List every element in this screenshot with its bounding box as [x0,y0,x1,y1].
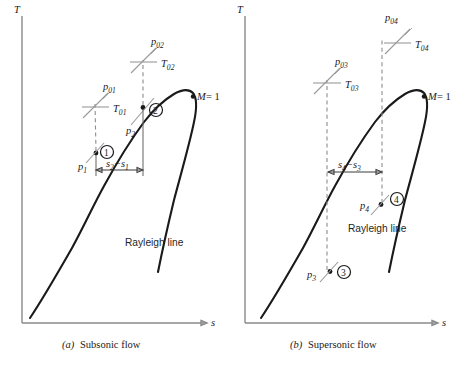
stagnation-temperature-04-label: T04 [415,39,429,53]
entropy-change-label-b: s4−s3 [338,159,361,173]
stagnation-pressure-04-label: p04 [384,12,398,26]
state-4-number: 4 [394,195,399,205]
mach-one-point-supersonic [422,94,426,98]
y-axis-label-supersonic: T [237,4,244,15]
mach-label-eq-subsonic: = 1 [206,91,220,102]
isobar-p3-line [320,262,338,282]
isobar-p4-line [371,195,389,215]
state-2-pressure-label: p2 [125,125,135,139]
rayleigh-line-label-subsonic: Rayleigh line [125,237,184,248]
panel-supersonic: T s M = 1 3 p3 4 p4 p03 T03 p04 T04 [237,4,451,351]
stagnation-pressure-02-label: p02 [150,36,164,50]
caption-marker-subsonic: (a) [62,339,75,351]
stagnation-pressure-03-label: p03 [334,56,348,70]
isobar-p1-line [86,143,104,163]
stagnation-temperature-01-label: T01 [113,103,126,117]
panel-subsonic: T s M = 1 1 p1 2 p2 p01 T01 p02 T0 [14,4,220,351]
stagnation-temperature-03-label: T03 [345,79,359,93]
isobar-p04-line [385,29,410,54]
ts-diagram-figure: T s M = 1 1 p1 2 p2 p01 T01 p02 T0 [0,0,465,367]
mach-label-eq-supersonic: = 1 [437,91,451,102]
caption-marker-supersonic: (b) [290,339,303,351]
state-4-pressure-label: p4 [359,200,369,214]
stagnation-pressure-01-label: p01 [102,81,116,95]
x-axis-label-subsonic: s [211,317,215,328]
state-1-pressure-label: p1 [77,161,87,175]
y-axis-label-subsonic: T [14,4,21,15]
state-3-number: 3 [341,268,346,278]
rayleigh-curve-subsonic [30,90,196,318]
figure-svg: T s M = 1 1 p1 2 p2 p01 T01 p02 T0 [0,0,465,367]
stagnation-guide-01 [95,104,96,151]
state-2-number: 2 [153,106,158,116]
leader-p04 [405,28,412,35]
state-1-number: 1 [104,148,109,158]
stagnation-temperature-02-label: T02 [161,58,175,72]
rayleigh-line-label-supersonic: Rayleigh line [348,223,407,234]
rayleigh-curve-supersonic [261,90,427,318]
isobar-p03-line [314,68,340,94]
caption-text-supersonic: Supersonic flow [308,339,377,350]
mach-one-point-subsonic [191,94,195,98]
x-axis-label-supersonic: s [442,317,446,328]
isobar-p02-line [131,48,156,73]
caption-text-subsonic: Subsonic flow [80,339,141,350]
state-3-pressure-label: p3 [306,269,316,283]
